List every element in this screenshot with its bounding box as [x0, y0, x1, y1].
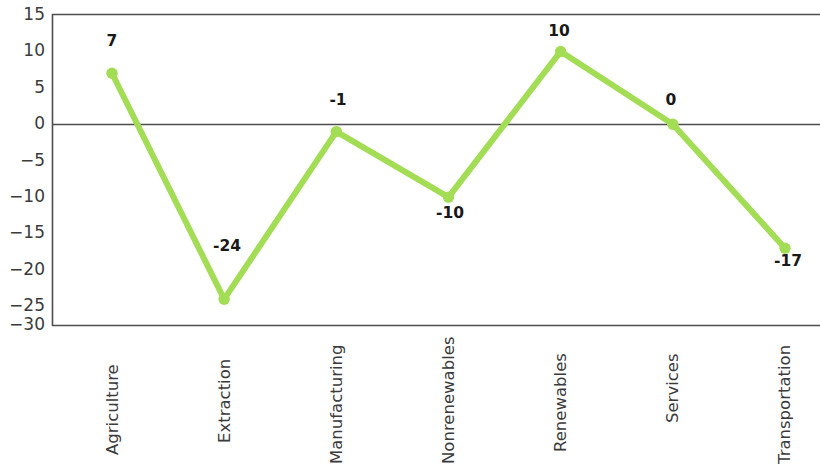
y-tick-label: 15 [23, 4, 45, 24]
x-tick-label-services: Services [663, 353, 682, 423]
data-point-marker[interactable] [555, 46, 566, 57]
y-axis-tick-labels: 15 10 5 0 −5 −10 −15 −20 −25 −30 [9, 4, 45, 334]
data-point-marker[interactable] [218, 293, 229, 304]
x-tick-label-nonrenewables: Nonrenewables [439, 337, 458, 464]
data-point-marker[interactable] [443, 191, 454, 202]
y-tick-label: −5 [20, 150, 45, 170]
x-tick-label-transportation: Transportation [775, 345, 794, 464]
plot-frame [52, 14, 820, 326]
x-tick-label-manufacturing: Manufacturing [327, 345, 346, 464]
chart-container: 15 10 5 0 −5 −10 −15 −20 −25 −30 7 -24 -… [0, 0, 820, 464]
data-point-marker[interactable] [106, 68, 117, 79]
data-point-labels: 7 -24 -1 -10 10 0 -17 [107, 22, 802, 270]
y-tick-label: 0 [34, 113, 45, 133]
y-tick-label: 5 [34, 77, 45, 97]
data-label: 7 [107, 32, 118, 50]
x-tick-label-renewables: Renewables [551, 353, 570, 452]
data-label: 0 [666, 91, 677, 109]
data-point-marker[interactable] [331, 126, 342, 137]
y-tick-label: 10 [23, 40, 45, 60]
y-tick-label: −20 [9, 259, 45, 279]
x-tick-label-agriculture: Agriculture [103, 364, 122, 455]
x-tick-label-extraction: Extraction [215, 359, 234, 443]
y-tick-label: −25 [9, 295, 45, 315]
y-tick-label: −30 [9, 314, 45, 334]
data-label: -17 [774, 252, 802, 270]
x-axis-tick-labels: Agriculture Extraction Manufacturing Non… [103, 337, 794, 464]
data-label: 10 [548, 22, 570, 40]
line-chart: 15 10 5 0 −5 −10 −15 −20 −25 −30 7 -24 -… [0, 0, 820, 464]
series-line [112, 51, 785, 299]
data-label: -24 [213, 237, 241, 255]
data-label: -1 [329, 91, 346, 109]
data-point-marker[interactable] [667, 119, 678, 130]
data-label: -10 [436, 204, 464, 222]
y-tick-label: −15 [9, 222, 45, 242]
series-group [112, 51, 785, 299]
y-tick-label: −10 [9, 186, 45, 206]
